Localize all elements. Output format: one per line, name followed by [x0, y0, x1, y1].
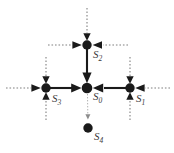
edge-s0-to-s4 — [85, 94, 90, 120]
edge-s2-to-s0 — [82, 49, 91, 83]
edge-external-left-to-s2 — [48, 41, 82, 48]
node-s4 — [83, 123, 92, 132]
edge-external-top-to-s3 — [42, 57, 49, 84]
edge-external-bottom-to-s1 — [126, 92, 133, 120]
node-label-s2: S2 — [93, 49, 102, 63]
edge-external-bottom-to-s3 — [42, 92, 49, 120]
node-label-s4: S4 — [94, 131, 103, 145]
edge-external-right-to-s1 — [135, 84, 170, 91]
node-s0 — [82, 83, 93, 94]
edge-external-left-to-s3 — [6, 84, 41, 91]
node-label-s0: S0 — [93, 91, 102, 105]
node-label-s1-subscript: 1 — [142, 98, 146, 107]
node-label-s4-subscript: 4 — [100, 136, 104, 145]
graph-canvas — [0, 0, 174, 153]
node-label-s3: S3 — [52, 93, 61, 107]
node-label-s0-subscript: 0 — [99, 96, 103, 105]
node-label-s1: S1 — [136, 93, 145, 107]
node-s2 — [82, 40, 91, 49]
edge-external-top-to-s1 — [126, 57, 133, 84]
node-label-s2-subscript: 2 — [99, 54, 103, 63]
edge-external-top-to-s2 — [83, 8, 90, 41]
node-label-s3-subscript: 3 — [58, 98, 62, 107]
diagram-figure: S2 S0 S3 S1 S4 — [0, 0, 174, 153]
node-s1 — [125, 83, 134, 92]
node-s3 — [41, 83, 50, 92]
